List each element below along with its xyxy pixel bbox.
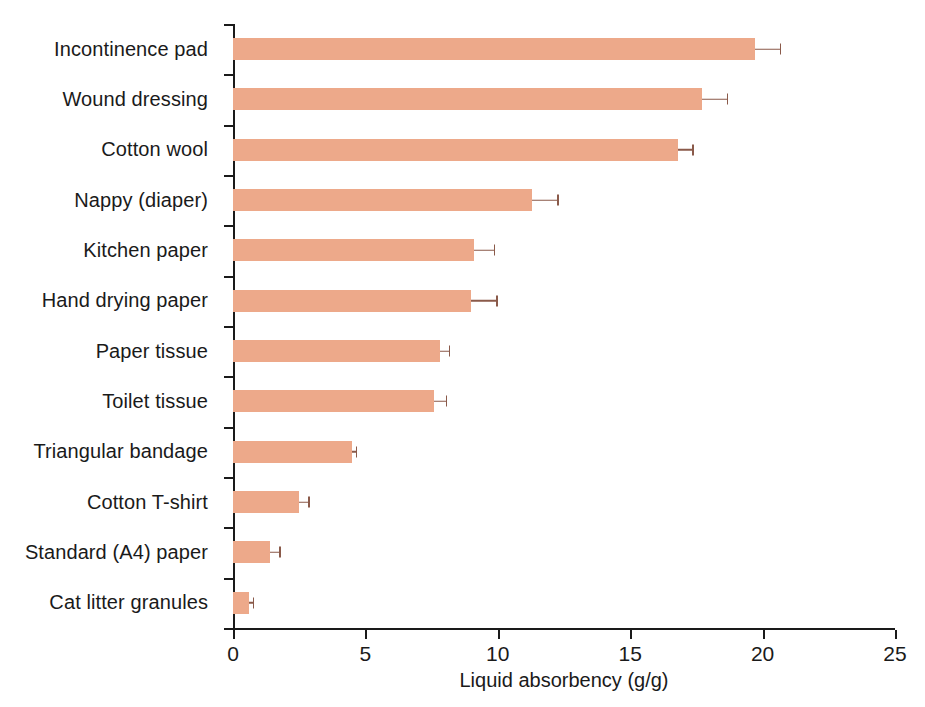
bar bbox=[233, 139, 678, 161]
y-axis-tick bbox=[224, 125, 233, 127]
bar bbox=[233, 592, 249, 614]
error-bar bbox=[678, 144, 694, 155]
x-axis-tick bbox=[895, 630, 897, 639]
bar bbox=[233, 88, 702, 110]
bar bbox=[233, 390, 434, 412]
error-bar bbox=[474, 245, 495, 256]
bar bbox=[233, 290, 471, 312]
error-bar-line bbox=[471, 300, 497, 302]
y-axis-tick bbox=[224, 427, 233, 429]
bar-row bbox=[233, 175, 895, 225]
error-bar-line bbox=[474, 250, 495, 252]
y-axis-tick-label: Cotton wool bbox=[101, 125, 208, 175]
error-bar-line bbox=[702, 99, 728, 101]
bar-chart: Incontinence padWound dressingCotton woo… bbox=[0, 0, 925, 707]
error-bar bbox=[299, 497, 310, 508]
bar bbox=[233, 239, 474, 261]
bar-row bbox=[233, 225, 895, 275]
bar-row bbox=[233, 578, 895, 628]
x-axis-tick-label: 5 bbox=[360, 642, 372, 666]
bar bbox=[233, 189, 532, 211]
y-axis-tick-label: Hand drying paper bbox=[42, 276, 208, 326]
error-bar-cap bbox=[446, 396, 448, 407]
y-axis-tick-label: Cotton T-shirt bbox=[87, 477, 208, 527]
error-bar bbox=[440, 346, 451, 357]
y-axis-tick-label: Incontinence pad bbox=[54, 24, 208, 74]
y-axis-tick-label: Toilet tissue bbox=[102, 376, 208, 426]
bar bbox=[233, 541, 270, 563]
error-bar bbox=[755, 44, 781, 55]
error-bar bbox=[352, 446, 357, 457]
y-axis-tick bbox=[224, 225, 233, 227]
x-axis-tick bbox=[763, 630, 765, 639]
error-bar bbox=[471, 295, 497, 306]
y-axis-tick bbox=[224, 527, 233, 529]
x-axis-tick bbox=[630, 630, 632, 639]
y-axis-tick-label: Triangular bandage bbox=[33, 427, 208, 477]
error-bar bbox=[249, 597, 254, 608]
y-axis-tick-label: Wound dressing bbox=[62, 74, 208, 124]
x-axis-tick-label: 0 bbox=[227, 642, 239, 666]
plot-area bbox=[233, 24, 895, 628]
y-axis-tick bbox=[224, 628, 233, 630]
error-bar-cap bbox=[449, 346, 451, 357]
x-axis-tick bbox=[365, 630, 367, 639]
bar-row bbox=[233, 427, 895, 477]
y-axis-tick bbox=[224, 477, 233, 479]
y-axis-labels: Incontinence padWound dressingCotton woo… bbox=[0, 24, 224, 628]
error-bar bbox=[434, 396, 447, 407]
y-axis-tick bbox=[224, 326, 233, 328]
bar bbox=[233, 340, 440, 362]
error-bar bbox=[270, 547, 281, 558]
bar-row bbox=[233, 477, 895, 527]
error-bar-cap bbox=[727, 94, 729, 105]
error-bar-cap bbox=[494, 245, 496, 256]
bar-row bbox=[233, 376, 895, 426]
bar-row bbox=[233, 326, 895, 376]
error-bar-cap bbox=[356, 446, 358, 457]
bar-row bbox=[233, 125, 895, 175]
error-bar-cap bbox=[253, 597, 255, 608]
bar bbox=[233, 38, 755, 60]
y-axis-tick bbox=[224, 74, 233, 76]
y-axis-tick-label: Paper tissue bbox=[96, 326, 208, 376]
x-axis-tick bbox=[498, 630, 500, 639]
bar bbox=[233, 441, 352, 463]
bar bbox=[233, 491, 299, 513]
y-axis-tick bbox=[224, 24, 233, 26]
y-axis-tick-label: Standard (A4) paper bbox=[25, 527, 208, 577]
x-axis-title: Liquid absorbency (g/g) bbox=[233, 669, 895, 692]
y-axis-tick bbox=[224, 276, 233, 278]
bar-row bbox=[233, 24, 895, 74]
x-axis-tick-label: 10 bbox=[486, 642, 509, 666]
bar-rows bbox=[233, 24, 895, 628]
x-axis-tick-label: 20 bbox=[751, 642, 774, 666]
error-bar-cap bbox=[308, 497, 310, 508]
y-axis-tick-label: Cat litter granules bbox=[49, 578, 208, 628]
error-bar-cap bbox=[279, 547, 281, 558]
bar-row bbox=[233, 527, 895, 577]
y-axis-tick-label: Nappy (diaper) bbox=[74, 175, 208, 225]
x-axis-tick bbox=[233, 630, 235, 639]
error-bar-line bbox=[755, 48, 781, 50]
x-axis-tick-label: 15 bbox=[619, 642, 642, 666]
y-axis-tick bbox=[224, 175, 233, 177]
y-axis-tick bbox=[224, 376, 233, 378]
y-axis-tick-label: Kitchen paper bbox=[83, 225, 208, 275]
error-bar-cap bbox=[496, 295, 498, 306]
error-bar-cap bbox=[692, 144, 694, 155]
x-axis-tick-label: 25 bbox=[883, 642, 906, 666]
bar-row bbox=[233, 276, 895, 326]
error-bar-cap bbox=[780, 44, 782, 55]
bar-row bbox=[233, 74, 895, 124]
error-bar bbox=[702, 94, 728, 105]
error-bar bbox=[532, 195, 558, 206]
y-axis-tick bbox=[224, 578, 233, 580]
error-bar-line bbox=[532, 199, 558, 201]
error-bar-cap bbox=[557, 195, 559, 206]
